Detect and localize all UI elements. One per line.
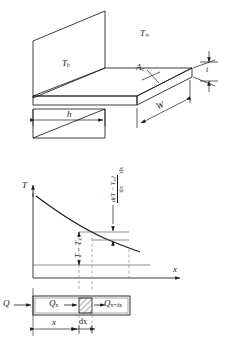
length-label: h: [67, 110, 72, 119]
fin-base-wall: [33, 11, 105, 98]
fin-geometry-3d: [33, 11, 192, 138]
temperature-profile-graph: [33, 185, 180, 290]
differential-element: [79, 298, 92, 313]
fin-front-edge: [33, 96, 137, 105]
heat-in-label: Q: [3, 299, 10, 308]
distance-label: x: [52, 318, 56, 327]
temperature-decay-curve: [36, 196, 140, 252]
conduction-in-label: Qx: [49, 299, 58, 309]
excess-temperature-label: T − T∞: [75, 237, 84, 258]
control-volume-energy-balance: [14, 288, 130, 336]
profile-y-axis-label: T: [22, 181, 27, 190]
fin-right-edge: [137, 68, 192, 105]
cross-section-leader-tick: [142, 72, 160, 80]
cross-section-area-label: Ac: [136, 63, 144, 73]
thickness-label: t: [206, 66, 208, 74]
derivative-callout-label: d(T − T∞) dx dx: [110, 167, 125, 203]
base-temperature-label: Tb: [62, 59, 70, 69]
ambient-temperature-label: T∞: [140, 29, 149, 39]
cross-section-leader-line: [147, 70, 159, 83]
fin-top-face: [33, 68, 192, 96]
conduction-out-label: Qx+dx: [104, 299, 122, 309]
profile-x-axis-label: x: [173, 265, 177, 274]
element-width-label: dx: [79, 318, 87, 326]
